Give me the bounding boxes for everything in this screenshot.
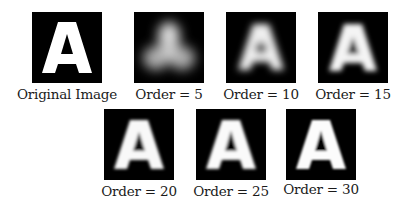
panel-order-25 <box>196 109 266 180</box>
panel-original <box>32 12 102 83</box>
caption-order-10: Order = 10 <box>216 86 306 102</box>
caption-order-30: Order = 30 <box>276 181 366 197</box>
reconstruction-order-15 <box>318 12 388 83</box>
caption-order-15: Order = 15 <box>308 86 398 102</box>
panel-order-30 <box>286 109 356 180</box>
caption-order-25: Order = 25 <box>186 183 276 199</box>
reconstruction-order-30 <box>286 109 356 180</box>
caption-original: Original Image <box>2 86 132 102</box>
letter-a-image <box>32 12 102 83</box>
reconstruction-order-10 <box>226 12 296 83</box>
panel-order-20 <box>104 109 174 180</box>
panel-order-10 <box>226 12 296 83</box>
reconstruction-order-25 <box>196 109 266 180</box>
panel-order-5 <box>134 12 204 83</box>
reconstruction-order-5 <box>134 12 204 83</box>
panel-order-15 <box>318 12 388 83</box>
caption-order-5: Order = 5 <box>124 86 214 102</box>
reconstruction-order-20 <box>104 109 174 180</box>
caption-order-20: Order = 20 <box>94 183 184 199</box>
